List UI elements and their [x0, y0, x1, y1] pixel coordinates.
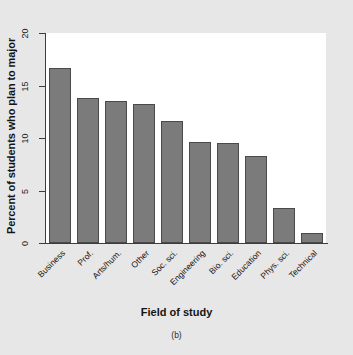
y-axis-title: Percent of students who plan to major	[2, 28, 20, 244]
bar-series	[46, 33, 326, 243]
bar	[189, 142, 210, 243]
bar	[301, 233, 322, 244]
y-axis-tick	[39, 33, 45, 34]
bar	[77, 98, 98, 243]
bar	[273, 208, 294, 243]
x-axis-title: Field of study	[0, 306, 353, 318]
bar	[245, 156, 266, 243]
bar	[49, 68, 70, 243]
x-axis-line	[45, 243, 328, 244]
bar	[105, 101, 126, 243]
y-axis-tick	[39, 243, 45, 244]
panel-caption: (b)	[0, 330, 353, 340]
figure-panel: Percent of students who plan to major 05…	[0, 0, 353, 355]
bar	[133, 104, 154, 243]
bar	[161, 121, 182, 243]
y-axis-tick-label: 0	[20, 233, 31, 255]
x-axis-tick-label: Technical	[263, 248, 320, 305]
bar	[217, 143, 238, 243]
y-axis-tick-label: 20	[20, 23, 31, 45]
y-axis-tick-label: 5	[20, 180, 31, 202]
y-axis-tick	[39, 191, 45, 192]
y-axis-tick-label: 15	[20, 75, 31, 97]
y-axis-tick	[39, 138, 45, 139]
y-axis-tick-label: 10	[20, 128, 31, 150]
y-axis-tick	[39, 86, 45, 87]
